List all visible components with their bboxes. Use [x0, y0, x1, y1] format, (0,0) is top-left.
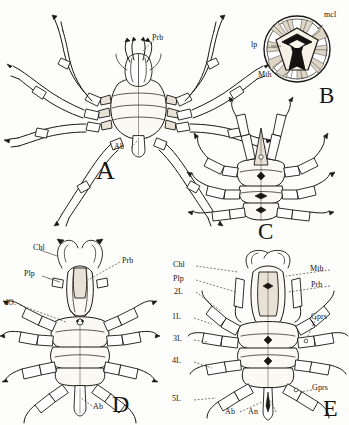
- panel-b-drawing: [264, 16, 330, 82]
- label-panel-d-plp: Plp: [24, 270, 35, 278]
- label-panel-d-ab: Ab: [93, 403, 103, 411]
- label-panel-a-prb: Prb: [152, 34, 163, 42]
- panel-e-leader-2l: [196, 292, 222, 312]
- label-panel-a-ab: Ab: [114, 143, 124, 151]
- panel-d-drawing: [0, 239, 160, 423]
- panel-e-leader-chl: [196, 266, 238, 272]
- label-panel-e-gprs-lower: Gprs: [312, 384, 328, 392]
- label-panel-b-mcl: mcl: [324, 11, 336, 19]
- label-panel-e-4l: 4L: [172, 357, 181, 365]
- label-panel-b-mth: Mth: [258, 71, 272, 79]
- label-panel-e-chl: Chl: [173, 261, 185, 269]
- label-panel-e-prb: Prb: [311, 281, 322, 289]
- label-panel-e-an: An: [248, 408, 258, 416]
- panel-e-leader-1l: [194, 318, 212, 324]
- label-panel-d-prb: Prb: [122, 257, 133, 265]
- label-panel-d-chl: Chl: [33, 244, 45, 252]
- panel-letter-e: E: [323, 396, 338, 420]
- figure-plate: Prb Ab A mcl lp Mth B C Chl Plp dO. Prb …: [0, 0, 349, 425]
- label-panel-e-5l: 5L: [172, 395, 181, 403]
- label-panel-e-1l: 1L: [172, 313, 181, 321]
- panel-e-leader-5l: [194, 398, 216, 400]
- label-panel-e-2l: 2L: [174, 288, 183, 296]
- label-panel-b-lp: lp: [251, 41, 257, 49]
- panel-letter-c: C: [258, 220, 273, 243]
- panel-a-abdomen: [132, 136, 145, 157]
- panel-letter-d: D: [112, 392, 129, 416]
- panel-a-proboscis: [116, 37, 161, 87]
- label-panel-e-plp: Plp: [173, 275, 184, 283]
- panel-a-trunk: [98, 78, 179, 139]
- panel-e-leader-plp: [196, 280, 236, 292]
- label-panel-e-mth: Mth: [310, 265, 324, 273]
- panel-letter-a: A: [96, 158, 115, 184]
- panel-letter-b: B: [319, 84, 334, 107]
- label-panel-d-do: dO.: [4, 299, 16, 307]
- panel-c-drawing: [187, 97, 335, 221]
- label-panel-e-ab: Ab: [225, 408, 235, 416]
- label-panel-e-gprs-upper: Gprs: [311, 313, 327, 321]
- label-panel-e-3l: 3L: [173, 335, 182, 343]
